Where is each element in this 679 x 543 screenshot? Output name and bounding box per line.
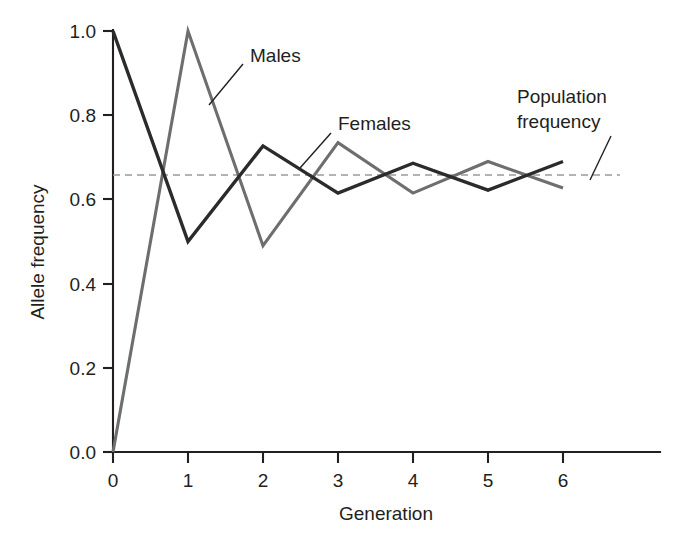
y-tick-label-0.6: 0.6 xyxy=(70,189,96,210)
x-tick-label-4: 4 xyxy=(408,470,419,491)
allele-frequency-line-chart: 1.0 0.8 0.6 0.4 0.2 0.0 Allele frequency xyxy=(0,0,679,543)
chart-container: 1.0 0.8 0.6 0.4 0.2 0.0 Allele frequency xyxy=(0,0,679,543)
x-axis: 0 1 2 3 4 5 6 Generation xyxy=(108,452,660,524)
annotation-label-females: Females xyxy=(338,113,411,134)
y-tick-label-0.0: 0.0 xyxy=(70,442,96,463)
x-tick-label-5: 5 xyxy=(483,470,494,491)
y-axis-title: Allele frequency xyxy=(27,184,48,320)
population-frequency-leader-line xyxy=(590,136,611,180)
x-tick-label-6: 6 xyxy=(558,470,569,491)
y-axis-tick-labels: 1.0 0.8 0.6 0.4 0.2 0.0 xyxy=(70,21,97,463)
x-axis-tick-labels: 0 1 2 3 4 5 6 xyxy=(108,470,569,491)
males-leader-line xyxy=(209,64,243,105)
y-tick-label-1.0: 1.0 xyxy=(70,21,96,42)
x-tick-label-2: 2 xyxy=(258,470,269,491)
x-tick-label-0: 0 xyxy=(108,470,119,491)
y-axis: 1.0 0.8 0.6 0.4 0.2 0.0 Allele frequency xyxy=(27,21,113,463)
x-tick-label-1: 1 xyxy=(183,470,194,491)
y-tick-label-0.4: 0.4 xyxy=(70,274,97,295)
x-axis-title: Generation xyxy=(339,503,433,524)
females-leader-line xyxy=(300,133,331,168)
y-tick-label-0.8: 0.8 xyxy=(70,105,96,126)
annotation-label-population-frequency-line1: Population xyxy=(517,86,607,107)
annotation-label-population-frequency-line2: frequency xyxy=(517,111,601,132)
x-tick-label-3: 3 xyxy=(333,470,344,491)
y-tick-label-0.2: 0.2 xyxy=(70,358,96,379)
series-line-females xyxy=(113,31,563,242)
annotation-label-males: Males xyxy=(250,45,301,66)
x-axis-ticks xyxy=(113,452,563,463)
y-axis-ticks xyxy=(103,31,113,452)
series-line-males xyxy=(113,31,563,452)
